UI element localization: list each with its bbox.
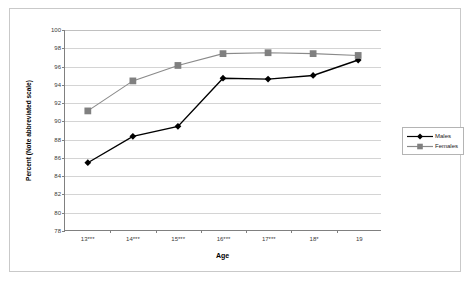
data-point-marker	[84, 159, 91, 166]
legend-item-females: Females	[407, 141, 459, 151]
legend-swatch-males	[407, 132, 433, 141]
data-point-marker	[175, 62, 182, 69]
y-axis-title: Percent (Note abbreviated scale)	[24, 30, 34, 231]
data-point-marker	[129, 78, 136, 85]
data-point-marker	[310, 50, 317, 57]
data-point-marker	[265, 76, 272, 83]
x-axis-tick-label: 17***	[262, 236, 276, 242]
y-axis-tick-label: 94	[54, 82, 61, 88]
series-females	[84, 49, 361, 114]
legend-item-males: Males	[407, 131, 459, 141]
legend-label-males: Males	[435, 133, 451, 139]
x-axis-tick-label: 14***	[126, 236, 140, 242]
y-axis-tick-mark	[62, 231, 65, 232]
chart-figure: Percent (Note abbreviated scale) 1009896…	[9, 8, 461, 272]
x-axis-title: Age	[64, 252, 381, 259]
plot-area: 1009896949290888684828078 13***14***15**…	[64, 30, 381, 231]
series-layer	[65, 30, 381, 230]
y-axis-tick-label: 92	[54, 100, 61, 106]
y-axis-tick-label: 80	[54, 210, 61, 216]
data-point-marker	[265, 49, 272, 56]
x-axis-tick-mark	[156, 230, 157, 233]
y-axis-tick-label: 78	[54, 228, 61, 234]
y-axis-tick-label: 82	[54, 191, 61, 197]
data-point-marker	[220, 50, 227, 57]
data-point-marker	[310, 72, 317, 79]
data-point-marker	[129, 133, 136, 140]
x-axis-tick-mark	[291, 230, 292, 233]
y-axis-tick-label: 100	[51, 27, 61, 33]
y-axis-tick-label: 86	[54, 155, 61, 161]
legend-swatch-females	[407, 142, 433, 151]
y-axis-tick-label: 84	[54, 173, 61, 179]
data-point-marker	[84, 108, 91, 115]
y-axis-tick-label: 88	[54, 137, 61, 143]
series-line	[88, 53, 358, 111]
x-axis-tick-mark	[201, 230, 202, 233]
chart-legend: Males Females	[402, 127, 464, 155]
x-axis-tick-mark	[110, 230, 111, 233]
x-axis-tick-mark	[337, 230, 338, 233]
y-axis-tick-label: 98	[54, 45, 61, 51]
x-axis-tick-mark	[246, 230, 247, 233]
x-axis-tick-label: 15***	[171, 236, 185, 242]
y-axis-tick-label: 90	[54, 118, 61, 124]
y-axis-tick-label: 96	[54, 64, 61, 70]
x-axis-tick-label: 19	[356, 236, 363, 242]
x-axis-tick-label: 13***	[81, 236, 95, 242]
x-axis-tick-label: 16***	[217, 236, 231, 242]
series-males	[84, 57, 361, 166]
x-axis-tick-label: 18*	[310, 236, 319, 242]
legend-label-females: Females	[435, 143, 458, 149]
data-point-marker	[355, 52, 362, 59]
